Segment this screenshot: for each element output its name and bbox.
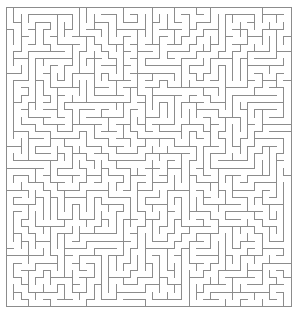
maze-canvas (0, 0, 297, 316)
maze-figure (0, 0, 297, 316)
